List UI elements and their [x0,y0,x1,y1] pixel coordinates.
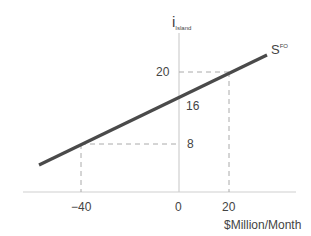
x-tick-20: 20 [222,201,235,213]
supply-curve-sfo [39,55,267,165]
series-label-sfo: SFO [271,43,288,56]
y-axis-label: iIsland [172,14,191,29]
y-tick-16: 16 [186,100,199,112]
y-tick-8: 8 [187,138,194,150]
chart-canvas [0,0,311,236]
x-axis-label: $Million/Month [224,219,301,231]
y-tick-20: 20 [156,66,169,78]
x-tick-neg40: −40 [71,201,91,213]
x-tick-0: 0 [175,201,182,213]
reference-lines [81,72,229,192]
